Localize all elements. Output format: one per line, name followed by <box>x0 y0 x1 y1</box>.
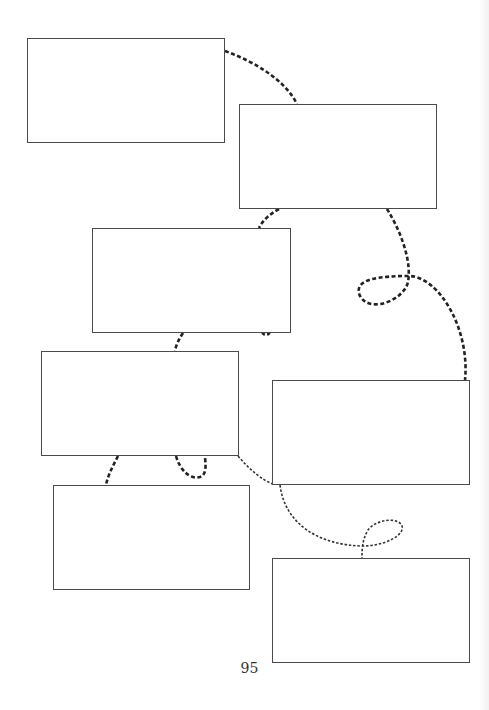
connector-5-7 <box>280 485 402 558</box>
connector-4-6 <box>106 456 118 485</box>
connector-2-3 <box>259 209 279 228</box>
flow-box-2 <box>239 104 437 209</box>
flow-box-5 <box>272 380 470 485</box>
flow-box-4 <box>41 351 239 456</box>
flow-box-1 <box>27 38 225 143</box>
flow-box-3 <box>92 228 291 333</box>
flow-box-7 <box>272 558 470 663</box>
flow-box-6 <box>53 485 250 590</box>
page-number: 95 <box>0 660 489 676</box>
connector-4-5 <box>238 456 273 484</box>
page-number-text: 95 <box>241 660 259 676</box>
connector-4-loop <box>176 456 206 478</box>
connector-3-4 <box>175 333 183 351</box>
connector-1-2 <box>225 51 297 104</box>
connector-2-5 <box>359 209 466 380</box>
